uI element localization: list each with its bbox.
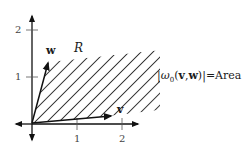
- equals-sign: =: [206, 69, 215, 82]
- vector-v-label: v: [117, 104, 123, 115]
- y-tick-label-2: 2: [15, 25, 21, 35]
- vector-w-label: w: [46, 45, 55, 56]
- region-r-hatch: [32, 50, 160, 123]
- omega-symbol: ω: [161, 69, 170, 82]
- region-r-label: R: [74, 42, 83, 54]
- x-tick-label-2: 2: [119, 134, 125, 144]
- y-tick-label-1: 1: [15, 72, 21, 82]
- x-tick-label-1: 1: [74, 134, 80, 144]
- area-equation: |ω0(v,w)|=Area of R: [157, 70, 242, 84]
- arg-w: w: [188, 69, 197, 82]
- rhs-text: Area of: [215, 69, 242, 82]
